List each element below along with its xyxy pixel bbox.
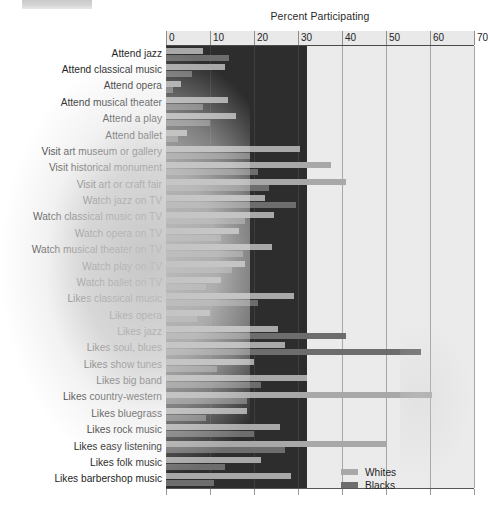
category-label: Likes folk music	[2, 457, 162, 468]
bar-whites	[166, 228, 239, 234]
scan-artifact-band	[22, 0, 92, 9]
bar-whites	[166, 195, 265, 201]
bar-whites	[166, 64, 225, 70]
category-label: Watch ballet on TV	[2, 277, 162, 288]
axis-tick-label-50: 50	[386, 31, 400, 45]
axis-tick-label-60: 60	[430, 31, 444, 45]
bar-whites	[166, 81, 181, 87]
bar-row	[166, 128, 474, 144]
bar-blacks	[166, 104, 203, 110]
legend-label-whites: Whites	[365, 466, 396, 479]
bar-blacks	[166, 480, 214, 486]
category-label: Visit art museum or gallery	[2, 146, 162, 157]
bar-row	[166, 95, 474, 111]
bar-row	[166, 423, 474, 439]
bar-blacks	[166, 349, 421, 355]
category-label: Watch opera on TV	[2, 228, 162, 239]
bar-whites	[166, 244, 272, 250]
bar-whites	[166, 473, 291, 479]
bar-row	[166, 275, 474, 291]
bar-row	[166, 177, 474, 193]
bar-blacks	[166, 235, 221, 241]
bottom-tick-10	[210, 489, 211, 495]
bar-blacks	[166, 87, 173, 93]
bar-whites	[166, 179, 346, 185]
bar-blacks	[166, 71, 192, 77]
bar-whites	[166, 97, 228, 103]
bar-whites	[166, 113, 236, 119]
bar-blacks	[166, 464, 225, 470]
category-label: Visit art or craft fair	[2, 179, 162, 190]
bar-row	[166, 341, 474, 357]
bar-blacks	[166, 382, 261, 388]
bar-blacks	[166, 251, 243, 257]
bar-row	[166, 357, 474, 373]
category-label: Attend ballet	[2, 130, 162, 141]
bar-blacks	[166, 284, 206, 290]
axis-tick-label-10: 10	[210, 31, 224, 45]
bar-blacks	[166, 55, 229, 61]
bar-whites	[166, 408, 247, 414]
bar-whites	[166, 310, 210, 316]
bar-row	[166, 308, 474, 324]
category-label: Likes classical music	[2, 293, 162, 304]
bar-row	[166, 292, 474, 308]
bar-whites	[166, 277, 221, 283]
category-label: Watch play on TV	[2, 261, 162, 272]
bar-row	[166, 406, 474, 422]
category-label-column: Attend jazzAttend classical musicAttend …	[0, 46, 162, 488]
bar-blacks	[166, 366, 217, 372]
bar-row	[166, 111, 474, 127]
bar-blacks	[166, 431, 254, 437]
gridline-70	[474, 46, 475, 488]
bar-row	[166, 242, 474, 258]
axis-tick-label-20: 20	[254, 31, 268, 45]
category-label: Visit historical monument	[2, 162, 162, 173]
axis-tick-label-70: 70	[474, 31, 488, 45]
bar-whites	[166, 48, 203, 54]
bar-row	[166, 193, 474, 209]
bar-row	[166, 324, 474, 340]
bar-row	[166, 210, 474, 226]
bar-row	[166, 259, 474, 275]
bar-whites	[166, 441, 386, 447]
bar-whites	[166, 293, 294, 299]
bottom-tick-70	[474, 489, 475, 495]
category-label: Likes big band	[2, 375, 162, 386]
bottom-tick-0	[166, 489, 167, 495]
bottom-tick-30	[298, 489, 299, 495]
category-label: Likes barbershop music	[2, 473, 162, 484]
bar-blacks	[166, 169, 258, 175]
bar-blacks	[166, 120, 210, 126]
bar-blacks	[166, 316, 197, 322]
category-label: Attend musical theater	[2, 97, 162, 108]
bar-whites	[166, 457, 261, 463]
bar-blacks	[166, 153, 250, 159]
category-label: Likes soul, blues	[2, 342, 162, 353]
bar-blacks	[166, 202, 296, 208]
bar-blacks	[166, 267, 232, 273]
bar-whites	[166, 130, 187, 136]
bar-row	[166, 390, 474, 406]
bar-row	[166, 62, 474, 78]
bar-blacks	[166, 333, 346, 339]
bar-whites	[166, 326, 278, 332]
bar-row	[166, 79, 474, 95]
category-label: Attend a play	[2, 113, 162, 124]
bar-row	[166, 373, 474, 389]
axis-tick-label-40: 40	[342, 31, 356, 45]
category-label: Likes bluegrass	[2, 408, 162, 419]
category-label: Attend classical music	[2, 64, 162, 75]
bar-blacks	[166, 185, 269, 191]
legend-swatch-blacks	[341, 482, 358, 488]
legend-swatch-whites	[341, 469, 358, 475]
category-label: Attend jazz	[2, 48, 162, 59]
axis-tick-label-30: 30	[298, 31, 312, 45]
category-label: Watch classical music on TV	[2, 211, 162, 222]
bar-whites	[166, 359, 254, 365]
bar-whites	[166, 392, 432, 398]
plot-area	[166, 46, 474, 488]
bar-blacks	[166, 300, 258, 306]
bar-row	[166, 144, 474, 160]
bar-row	[166, 161, 474, 177]
